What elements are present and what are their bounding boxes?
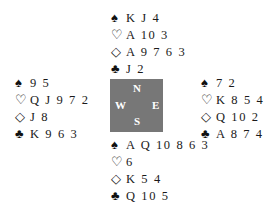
west-spades: ♠9 5 xyxy=(15,74,90,91)
spade-icon: ♠ xyxy=(15,74,30,91)
south-spades: ♠A Q 10 8 6 3 xyxy=(111,136,209,153)
east-clubs: ♣A 8 7 4 xyxy=(201,125,264,142)
east-hand: ♠7 2 ♡K 8 5 4 ◇Q 10 2 ♣A 8 7 4 xyxy=(201,74,264,142)
diamond-icon: ◇ xyxy=(201,108,216,125)
west-hand: ♠9 5 ♡Q J 9 7 2 ◇J 8 ♣K 9 6 3 xyxy=(15,74,90,142)
heart-icon: ♡ xyxy=(201,91,216,108)
north-hearts: ♡A 10 3 xyxy=(111,26,186,43)
spade-icon: ♠ xyxy=(111,9,126,26)
diamond-icon: ◇ xyxy=(15,108,30,125)
south-clubs: ♣Q 10 5 xyxy=(111,187,209,204)
north-clubs: ♣J 2 xyxy=(111,60,186,77)
compass-west-label: W xyxy=(115,100,126,111)
compass-north-label: N xyxy=(133,83,141,94)
heart-icon: ♡ xyxy=(111,26,126,43)
west-hearts: ♡Q J 9 7 2 xyxy=(15,91,90,108)
west-clubs: ♣K 9 6 3 xyxy=(15,125,90,142)
north-spades: ♠K J 4 xyxy=(111,9,186,26)
club-icon: ♣ xyxy=(111,187,126,204)
east-hearts: ♡K 8 5 4 xyxy=(201,91,264,108)
north-diamonds: ◇A 9 7 6 3 xyxy=(111,43,186,60)
compass-east-label: E xyxy=(152,100,159,111)
east-diamonds: ◇Q 10 2 xyxy=(201,108,264,125)
diamond-icon: ◇ xyxy=(111,170,126,187)
spade-icon: ♠ xyxy=(201,74,216,91)
north-hand: ♠K J 4 ♡A 10 3 ◇A 9 7 6 3 ♣J 2 xyxy=(111,9,186,77)
south-hand: ♠A Q 10 8 6 3 ♡6 ◇K 5 4 ♣Q 10 5 xyxy=(111,136,209,204)
east-spades: ♠7 2 xyxy=(201,74,264,91)
south-hearts: ♡6 xyxy=(111,153,209,170)
compass-box: N W E S xyxy=(110,79,163,132)
heart-icon: ♡ xyxy=(15,91,30,108)
south-diamonds: ◇K 5 4 xyxy=(111,170,209,187)
west-diamonds: ◇J 8 xyxy=(15,108,90,125)
compass-south-label: S xyxy=(134,116,140,127)
diamond-icon: ◇ xyxy=(111,43,126,60)
club-icon: ♣ xyxy=(111,60,126,77)
spade-icon: ♠ xyxy=(111,136,126,153)
heart-icon: ♡ xyxy=(111,153,126,170)
club-icon: ♣ xyxy=(15,125,30,142)
